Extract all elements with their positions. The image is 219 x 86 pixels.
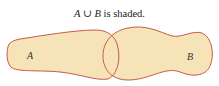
set-a-label: A [26, 50, 34, 61]
venn-diagram: A B [0, 0, 219, 86]
set-b-label: B [187, 51, 193, 62]
set-b-region [103, 27, 212, 80]
